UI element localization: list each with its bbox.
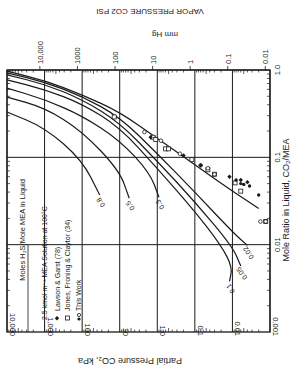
top-title: VAPOR PRESSURE CO2 PSI — [96, 7, 203, 16]
x-axis-label: Partial Pressure CO₂, kPa — [78, 356, 182, 366]
secondary-x-tick-label: 0.1 — [224, 54, 233, 64]
open-square-point — [167, 147, 171, 151]
legend-title-text: Moles H₂S/Mole MEA in Liquid — [18, 179, 27, 281]
filled-circle-point — [239, 182, 242, 185]
legend-item-jones: Jones, Froning & Claytor (34) — [64, 220, 72, 320]
secondary-x-tick-label: 100 — [111, 51, 120, 64]
legend: Moles H₂S/Mole MEA in Liquid 2.5 kmol m⁻… — [18, 179, 82, 332]
x-tick-label: 100 — [83, 323, 92, 336]
filled-diamond-point — [245, 180, 249, 184]
y-tick-label: 1.0 — [273, 65, 282, 75]
x-tick-label: 10 — [121, 328, 130, 336]
x-tick-label: 10,000 — [8, 313, 17, 336]
legend-label-this-work: This Work — [75, 279, 82, 311]
open-square-point — [190, 158, 194, 162]
curve-h2s-0-3 — [7, 88, 159, 197]
secondary-x-label: mm Hg — [152, 30, 178, 39]
filled-circle-point — [234, 178, 237, 181]
curve-label: 0.3 — [154, 199, 165, 211]
labels: 10,0001,000100101.00.10.010.00110,000100… — [8, 41, 282, 336]
open-circle-point — [206, 166, 210, 170]
filled-circle-point — [257, 193, 260, 196]
open-square-point — [239, 189, 243, 193]
secondary-x-tick-label: 0.01 — [261, 49, 270, 64]
filled-circle-point — [248, 184, 251, 187]
chart: 10,0001,000100101.00.10.010.00110,000100… — [0, 0, 298, 367]
legend-item-lawson: Lawson & Garst (78) — [54, 247, 62, 321]
y-axis-label: Mole Ratio in Liquid, CO₂/MEA — [281, 138, 291, 261]
open-square-point — [154, 138, 158, 142]
legend-title: Moles H₂S/Mole MEA in Liquid — [18, 179, 27, 281]
curve-label: 0.02 — [241, 245, 255, 260]
open-circle-point — [178, 152, 182, 156]
legend-note: 2.5 kmol m⁻³ MEA Solution at 100°C — [41, 206, 48, 320]
legend-label-jones: Jones, Froning & Claytor (34) — [64, 220, 72, 311]
open-circle-point — [264, 220, 268, 224]
open-circle-point — [213, 172, 217, 176]
x-tick-label: 1.0 — [158, 326, 167, 336]
legend-item-this-work: This Work — [75, 279, 82, 320]
filled-diamond-point — [227, 175, 231, 179]
legend-label-lawson: Lawson & Garst (78) — [54, 247, 62, 311]
x-tick-label: 0.01 — [233, 321, 242, 336]
open-circle-point — [143, 130, 147, 134]
secondary-x-tick-label: 1000 — [73, 47, 82, 64]
data-points — [112, 115, 267, 224]
secondary-x-tick-label: 10,000 — [36, 41, 45, 64]
filled-circle-point — [242, 183, 245, 186]
open-square-point — [112, 115, 116, 119]
open-circle-point — [159, 139, 163, 143]
curve-label: 0.8 — [95, 196, 106, 208]
secondary-x-tick-label: 1 — [186, 60, 195, 64]
curve-label: 0.5 — [124, 200, 135, 212]
filled-diamond-point — [239, 178, 243, 182]
x-tick-label: 0.001 — [271, 317, 280, 336]
secondary-x-tick-label: 10 — [149, 56, 158, 64]
open-square-icon — [66, 316, 70, 320]
curve-label: 0.05 — [235, 266, 249, 281]
curve-label: 0.1 — [225, 283, 236, 295]
filled-circle-icon — [77, 317, 80, 320]
x-tick-label: 0.1 — [196, 326, 205, 336]
open-circle-point — [259, 220, 263, 224]
open-circle-icon — [77, 313, 80, 316]
